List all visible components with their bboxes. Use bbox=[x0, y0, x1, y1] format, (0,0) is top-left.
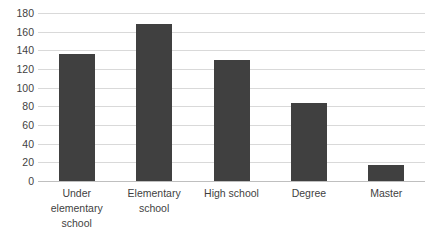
y-axis-tick-label: 160 bbox=[0, 27, 34, 37]
bar[interactable] bbox=[291, 103, 327, 181]
y-axis-tick-label: 140 bbox=[0, 45, 34, 55]
x-axis-category-label: Under elementary school bbox=[38, 186, 115, 238]
y-axis-tick-label: 60 bbox=[0, 120, 34, 130]
bar-slot bbox=[38, 13, 115, 181]
bar-slot bbox=[115, 13, 192, 181]
x-axis-category-label: Master bbox=[348, 186, 425, 238]
x-axis: Under elementary schoolElementary school… bbox=[38, 186, 425, 238]
bar-chart: 180160140120100806040200 Under elementar… bbox=[0, 0, 435, 238]
bar-slot bbox=[348, 13, 425, 181]
x-axis-category-label: High school bbox=[193, 186, 270, 238]
bar-slot bbox=[193, 13, 270, 181]
bars-layer bbox=[38, 13, 425, 181]
bar-slot bbox=[270, 13, 347, 181]
bar[interactable] bbox=[59, 54, 95, 181]
bar[interactable] bbox=[368, 165, 404, 181]
y-axis-tick-label: 100 bbox=[0, 83, 34, 93]
x-axis-category-label: Elementary school bbox=[115, 186, 192, 238]
x-axis-category-label: Degree bbox=[270, 186, 347, 238]
y-axis-tick-label: 180 bbox=[0, 8, 34, 18]
y-axis-tick-label: 40 bbox=[0, 139, 34, 149]
y-axis: 180160140120100806040200 bbox=[0, 0, 34, 190]
y-axis-tick-label: 120 bbox=[0, 64, 34, 74]
axis-baseline bbox=[38, 181, 425, 182]
bar[interactable] bbox=[214, 60, 250, 181]
y-axis-tick-label: 0 bbox=[0, 176, 34, 186]
bar[interactable] bbox=[136, 24, 172, 181]
y-axis-tick-label: 20 bbox=[0, 157, 34, 167]
y-axis-tick-label: 80 bbox=[0, 101, 34, 111]
plot-area bbox=[38, 13, 425, 181]
